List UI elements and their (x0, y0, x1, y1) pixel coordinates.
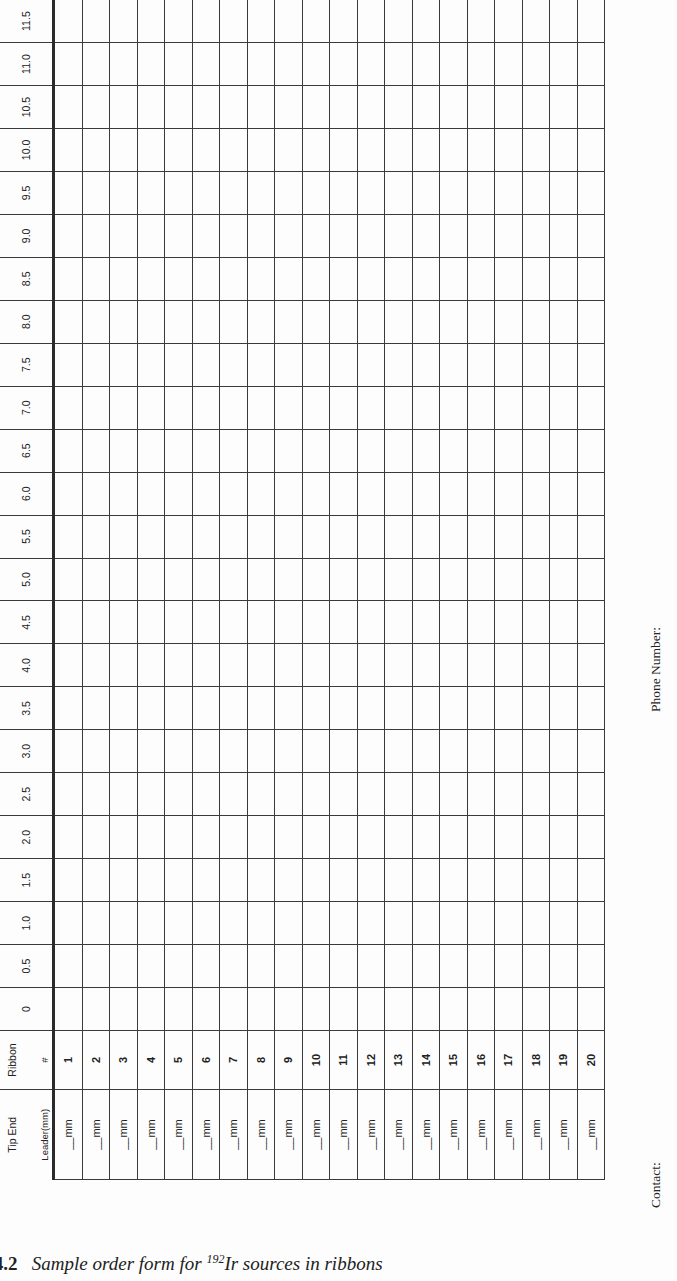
seed-position-cell[interactable] (82, 816, 110, 859)
seed-position-cell[interactable] (275, 472, 303, 515)
seed-position-cell[interactable] (577, 386, 605, 429)
seed-position-cell[interactable] (275, 343, 303, 386)
seed-position-cell[interactable] (54, 472, 83, 515)
seed-position-cell[interactable] (385, 515, 413, 558)
seed-position-cell[interactable] (412, 343, 440, 386)
seed-position-cell[interactable] (357, 988, 385, 1031)
seed-position-cell[interactable] (110, 859, 138, 902)
seed-position-cell[interactable] (275, 43, 303, 86)
seed-position-cell[interactable] (54, 902, 83, 945)
seed-position-cell[interactable] (247, 601, 275, 644)
seed-position-cell[interactable] (220, 644, 248, 687)
leader-length-cell[interactable]: __mm (192, 1090, 220, 1180)
seed-position-cell[interactable] (412, 644, 440, 687)
seed-position-cell[interactable] (440, 43, 468, 86)
seed-position-cell[interactable] (330, 472, 358, 515)
seed-position-cell[interactable] (357, 86, 385, 129)
seed-position-cell[interactable] (330, 0, 358, 43)
seed-position-cell[interactable] (82, 945, 110, 988)
seed-position-cell[interactable] (330, 257, 358, 300)
seed-position-cell[interactable] (577, 816, 605, 859)
seed-position-cell[interactable] (275, 730, 303, 773)
seed-position-cell[interactable] (412, 429, 440, 472)
seed-position-cell[interactable] (192, 429, 220, 472)
seed-position-cell[interactable] (110, 730, 138, 773)
seed-position-cell[interactable] (82, 988, 110, 1031)
seed-position-cell[interactable] (495, 43, 523, 86)
seed-position-cell[interactable] (220, 472, 248, 515)
seed-position-cell[interactable] (522, 43, 550, 86)
leader-length-cell[interactable]: __mm (302, 1090, 330, 1180)
seed-position-cell[interactable] (330, 902, 358, 945)
seed-position-cell[interactable] (440, 128, 468, 171)
seed-position-cell[interactable] (82, 300, 110, 343)
seed-position-cell[interactable] (110, 128, 138, 171)
seed-position-cell[interactable] (82, 386, 110, 429)
seed-position-cell[interactable] (522, 773, 550, 816)
seed-position-cell[interactable] (412, 902, 440, 945)
seed-position-cell[interactable] (440, 386, 468, 429)
seed-position-cell[interactable] (495, 816, 523, 859)
seed-position-cell[interactable] (110, 343, 138, 386)
seed-position-cell[interactable] (165, 601, 193, 644)
seed-position-cell[interactable] (192, 515, 220, 558)
seed-position-cell[interactable] (192, 601, 220, 644)
seed-position-cell[interactable] (275, 128, 303, 171)
seed-position-cell[interactable] (192, 902, 220, 945)
seed-position-cell[interactable] (330, 816, 358, 859)
seed-position-cell[interactable] (550, 472, 578, 515)
seed-position-cell[interactable] (495, 472, 523, 515)
seed-position-cell[interactable] (247, 0, 275, 43)
seed-position-cell[interactable] (137, 945, 165, 988)
seed-position-cell[interactable] (192, 43, 220, 86)
leader-length-cell[interactable]: __mm (467, 1090, 495, 1180)
seed-position-cell[interactable] (495, 859, 523, 902)
seed-position-cell[interactable] (440, 687, 468, 730)
seed-position-cell[interactable] (165, 472, 193, 515)
seed-position-cell[interactable] (467, 601, 495, 644)
seed-position-cell[interactable] (577, 601, 605, 644)
seed-position-cell[interactable] (412, 988, 440, 1031)
seed-position-cell[interactable] (275, 687, 303, 730)
seed-position-cell[interactable] (522, 214, 550, 257)
seed-position-cell[interactable] (550, 386, 578, 429)
seed-position-cell[interactable] (357, 902, 385, 945)
seed-position-cell[interactable] (467, 988, 495, 1031)
seed-position-cell[interactable] (440, 472, 468, 515)
seed-position-cell[interactable] (412, 687, 440, 730)
seed-position-cell[interactable] (302, 515, 330, 558)
seed-position-cell[interactable] (110, 472, 138, 515)
seed-position-cell[interactable] (495, 988, 523, 1031)
seed-position-cell[interactable] (495, 902, 523, 945)
seed-position-cell[interactable] (275, 773, 303, 816)
leader-length-cell[interactable]: __mm (165, 1090, 193, 1180)
seed-position-cell[interactable] (247, 472, 275, 515)
seed-position-cell[interactable] (110, 300, 138, 343)
seed-position-cell[interactable] (54, 515, 83, 558)
seed-position-cell[interactable] (302, 86, 330, 129)
seed-position-cell[interactable] (110, 945, 138, 988)
leader-length-cell[interactable]: __mm (550, 1090, 578, 1180)
seed-position-cell[interactable] (550, 945, 578, 988)
seed-position-cell[interactable] (247, 816, 275, 859)
seed-position-cell[interactable] (467, 429, 495, 472)
seed-position-cell[interactable] (357, 0, 385, 43)
seed-position-cell[interactable] (330, 343, 358, 386)
seed-position-cell[interactable] (302, 171, 330, 214)
seed-position-cell[interactable] (412, 128, 440, 171)
seed-position-cell[interactable] (357, 343, 385, 386)
seed-position-cell[interactable] (330, 86, 358, 129)
seed-position-cell[interactable] (467, 86, 495, 129)
seed-position-cell[interactable] (82, 515, 110, 558)
seed-position-cell[interactable] (165, 644, 193, 687)
leader-length-cell[interactable]: __mm (385, 1090, 413, 1180)
seed-position-cell[interactable] (495, 0, 523, 43)
seed-position-cell[interactable] (302, 0, 330, 43)
seed-position-cell[interactable] (357, 300, 385, 343)
seed-position-cell[interactable] (412, 43, 440, 86)
seed-position-cell[interactable] (275, 601, 303, 644)
seed-position-cell[interactable] (550, 859, 578, 902)
seed-position-cell[interactable] (522, 86, 550, 129)
seed-position-cell[interactable] (495, 386, 523, 429)
leader-length-cell[interactable]: __mm (330, 1090, 358, 1180)
